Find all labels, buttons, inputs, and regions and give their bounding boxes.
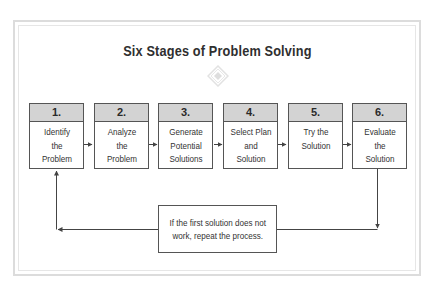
stage-number: 6. — [353, 104, 406, 122]
stage-label: Identify the Problem — [30, 122, 84, 166]
note-line-1: If the first solution does not — [169, 216, 266, 229]
stage-number: 3. — [159, 104, 212, 122]
stage-box-6: 6. Evaluate the Solution — [352, 103, 407, 169]
stage-box-4: 4. Select Plan and Solution — [223, 103, 278, 169]
stage-label: Select Plan and Solution — [224, 122, 278, 166]
stage-box-1: 1. Identify the Problem — [29, 103, 84, 169]
stage-number: 4. — [224, 104, 277, 122]
stage-box-5: 5. Try the Solution — [288, 103, 343, 169]
repeat-process-note: If the first solution does not work, rep… — [158, 205, 277, 253]
stage-label: Evaluate the Solution — [353, 122, 407, 166]
repeat-process-note-text: If the first solution does not work, rep… — [169, 216, 266, 242]
stage-number: 2. — [95, 104, 148, 122]
stage-number: 5. — [289, 104, 342, 122]
stage-number: 1. — [30, 104, 83, 122]
stage-label: Generate Potential Solutions — [159, 122, 213, 166]
stage-box-2: 2. Analyze the Problem — [94, 103, 149, 169]
stage-box-3: 3. Generate Potential Solutions — [158, 103, 213, 169]
stage-label: Analyze the Problem — [95, 122, 149, 166]
stage-label: Try the Solution — [289, 122, 343, 152]
note-line-2: work, repeat the process. — [169, 229, 266, 242]
